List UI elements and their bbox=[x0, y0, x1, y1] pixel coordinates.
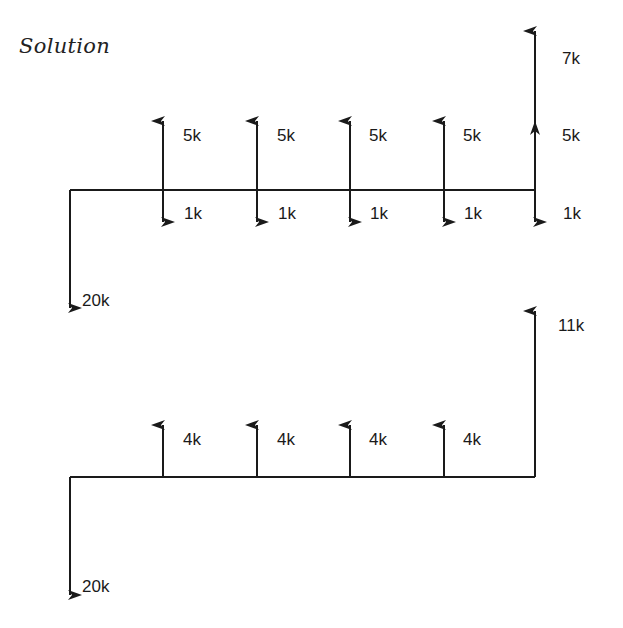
period-3: 5k 1k bbox=[350, 121, 388, 223]
inflow-label: 5k bbox=[463, 126, 481, 145]
diagram-2: 20k 4k 4k 4k 4k 11k bbox=[70, 311, 585, 596]
period-1: 5k 1k bbox=[163, 121, 202, 223]
initial-outflow-label: 20k bbox=[82, 577, 110, 596]
outflow-label: 1k bbox=[464, 204, 482, 223]
period-2: 4k bbox=[257, 425, 295, 477]
period-5: 7k 5k 1k bbox=[530, 31, 581, 223]
inflow-label: 4k bbox=[369, 430, 387, 449]
inflow-label: 4k bbox=[277, 430, 295, 449]
inflow-label: 4k bbox=[463, 430, 481, 449]
outflow-label: 1k bbox=[370, 204, 388, 223]
cash-flow-diagrams: 20k 5k 1k 5k 1k 5k 1k 5k 1k bbox=[0, 0, 623, 628]
period-2: 5k 1k bbox=[257, 121, 296, 223]
period-4: 5k 1k bbox=[444, 121, 482, 223]
inflow-label: 11k bbox=[558, 316, 585, 335]
initial-outflow-arrow: 20k bbox=[70, 190, 110, 310]
period-4: 4k bbox=[444, 425, 481, 477]
inflow-label: 5k bbox=[183, 126, 201, 145]
period-1: 4k bbox=[163, 425, 201, 477]
period-5: 11k bbox=[535, 311, 585, 477]
inflow-label: 4k bbox=[183, 430, 201, 449]
diagram-1: 20k 5k 1k 5k 1k 5k 1k 5k 1k bbox=[70, 31, 581, 310]
inflow-label: 7k bbox=[562, 49, 580, 68]
inflow-label: 5k bbox=[277, 126, 295, 145]
outflow-label: 1k bbox=[563, 204, 581, 223]
inflow-label: 5k bbox=[562, 126, 580, 145]
initial-outflow-arrow: 20k bbox=[70, 477, 110, 596]
outflow-label: 1k bbox=[278, 204, 296, 223]
inflow-label: 5k bbox=[369, 126, 387, 145]
initial-outflow-label: 20k bbox=[82, 291, 110, 310]
period-3: 4k bbox=[350, 425, 387, 477]
outflow-label: 1k bbox=[184, 204, 202, 223]
